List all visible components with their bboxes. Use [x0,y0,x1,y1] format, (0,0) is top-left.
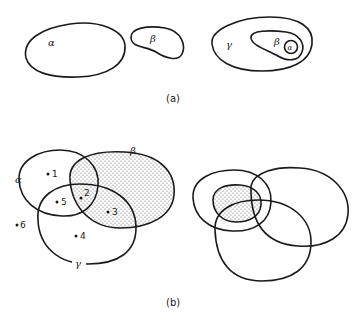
label-beta-nested: β [273,36,280,47]
svg-text:3: 3 [112,207,118,217]
svg-text:6: 6 [20,220,26,230]
set-alpha-outline [25,23,125,77]
point-6: 6 [16,220,27,230]
svg-text:4: 4 [80,231,86,241]
svg-text:2: 2 [84,188,90,198]
label-beta: β [149,33,156,44]
point-4: 4 [75,231,87,241]
svg-text:1: 1 [52,169,58,179]
label-beta-b: β [129,145,136,156]
set-beta-outline [131,27,183,59]
part-b-left: β α γ 1 2 3 4 5 6 [15,145,174,269]
label-gamma: γ [226,39,232,50]
point-1: 1 [47,169,58,179]
label-alpha-b: α [15,174,22,185]
part-b-right [193,168,348,281]
venn-diagram-figure: α β γ β α (a) β α γ 1 2 [0,0,363,321]
caption-a: (a) [166,93,180,104]
part-a: α β γ β α (a) [25,17,312,104]
set-right-outline [251,168,348,247]
label-alpha-nested: α [288,44,293,52]
svg-text:5: 5 [61,197,67,207]
point-5: 5 [56,197,67,207]
label-gamma-b: γ [75,258,81,269]
caption-b: (b) [166,297,180,308]
label-alpha: α [48,37,55,48]
